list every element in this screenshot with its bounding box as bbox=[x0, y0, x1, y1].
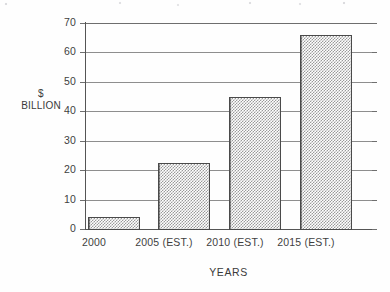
bar-chart-figure: 70 60 50 40 30 20 10 0 $ BILLION 2000 20… bbox=[0, 0, 390, 292]
bar-2015-est bbox=[300, 35, 352, 230]
y-tick-label-20: 20 bbox=[42, 164, 76, 175]
y-axis-title-line-1: $ bbox=[8, 88, 74, 100]
y-tick-mark-10 bbox=[80, 200, 85, 201]
y-axis-title-line-2: BILLION bbox=[8, 100, 74, 112]
y-tick-label-10: 10 bbox=[42, 194, 76, 205]
y-tick-mark-right-0 bbox=[372, 229, 377, 230]
x-axis-title: YEARS bbox=[85, 266, 372, 278]
bar-2010-est bbox=[229, 97, 281, 230]
y-tick-label-0: 0 bbox=[42, 223, 76, 234]
y-tick-label-70: 70 bbox=[42, 17, 76, 28]
y-tick-label-30: 30 bbox=[42, 135, 76, 146]
y-tick-mark-0 bbox=[80, 229, 85, 230]
plot-area bbox=[85, 23, 372, 229]
y-axis-line bbox=[85, 22, 86, 230]
y-tick-mark-20 bbox=[80, 170, 85, 171]
y-axis-title: $ BILLION bbox=[8, 88, 74, 111]
y-tick-mark-70 bbox=[80, 23, 85, 24]
y-tick-mark-right-30 bbox=[372, 141, 377, 142]
x-tick-label-2000: 2000 bbox=[54, 236, 134, 248]
y-tick-mark-right-70 bbox=[372, 23, 377, 24]
y-tick-mark-30 bbox=[80, 141, 85, 142]
y-tick-mark-right-10 bbox=[372, 200, 377, 201]
y-tick-mark-60 bbox=[80, 52, 85, 53]
bar-2005-est bbox=[158, 163, 210, 230]
x-tick-label-2010-est: 2010 (EST.) bbox=[195, 236, 275, 248]
y-tick-mark-right-20 bbox=[372, 170, 377, 171]
y-tick-label-50: 50 bbox=[42, 76, 76, 87]
scan-artifact bbox=[0, 0, 390, 9]
y-tick-mark-right-40 bbox=[372, 111, 377, 112]
bar-2000 bbox=[88, 217, 140, 230]
y-tick-mark-50 bbox=[80, 82, 85, 83]
y-tick-label-60: 60 bbox=[42, 46, 76, 57]
gridline-70 bbox=[85, 23, 372, 24]
y-tick-mark-40 bbox=[80, 111, 85, 112]
y-tick-mark-right-50 bbox=[372, 82, 377, 83]
x-tick-label-2015-est: 2015 (EST.) bbox=[266, 236, 346, 248]
y-tick-mark-right-60 bbox=[372, 52, 377, 53]
x-tick-label-2005-est: 2005 (EST.) bbox=[124, 236, 204, 248]
